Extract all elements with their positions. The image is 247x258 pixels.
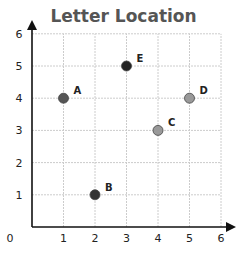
data-point-d	[185, 93, 195, 103]
x-tick-label: 5	[186, 232, 193, 245]
data-point-b	[90, 190, 100, 200]
y-tick-label: 4	[16, 92, 23, 105]
x-tick-label: 3	[123, 232, 130, 245]
y-tick-label: 3	[16, 124, 23, 137]
x-tick-label: 4	[155, 232, 162, 245]
point-label-c: C	[168, 117, 175, 128]
data-point-e	[122, 61, 132, 71]
point-label-e: E	[137, 53, 144, 64]
point-label-b: B	[105, 182, 113, 193]
y-tick-label: 1	[16, 189, 23, 202]
x-tick-label: 1	[60, 232, 67, 245]
data-point-c	[153, 125, 163, 135]
point-label-a: A	[74, 85, 82, 96]
y-tick-label: 5	[16, 60, 23, 73]
x-tick-label: 2	[92, 232, 99, 245]
y-tick-label: 2	[16, 157, 23, 170]
scatter-plot: 0123456123456ABCDE	[0, 0, 247, 258]
x-tick-label: 0	[7, 232, 14, 245]
y-axis-arrow-icon	[27, 20, 37, 30]
point-label-d: D	[200, 85, 208, 96]
y-tick-label: 6	[16, 28, 23, 41]
x-tick-label: 6	[218, 232, 225, 245]
x-axis-arrow-icon	[226, 222, 236, 232]
data-point-a	[59, 93, 69, 103]
